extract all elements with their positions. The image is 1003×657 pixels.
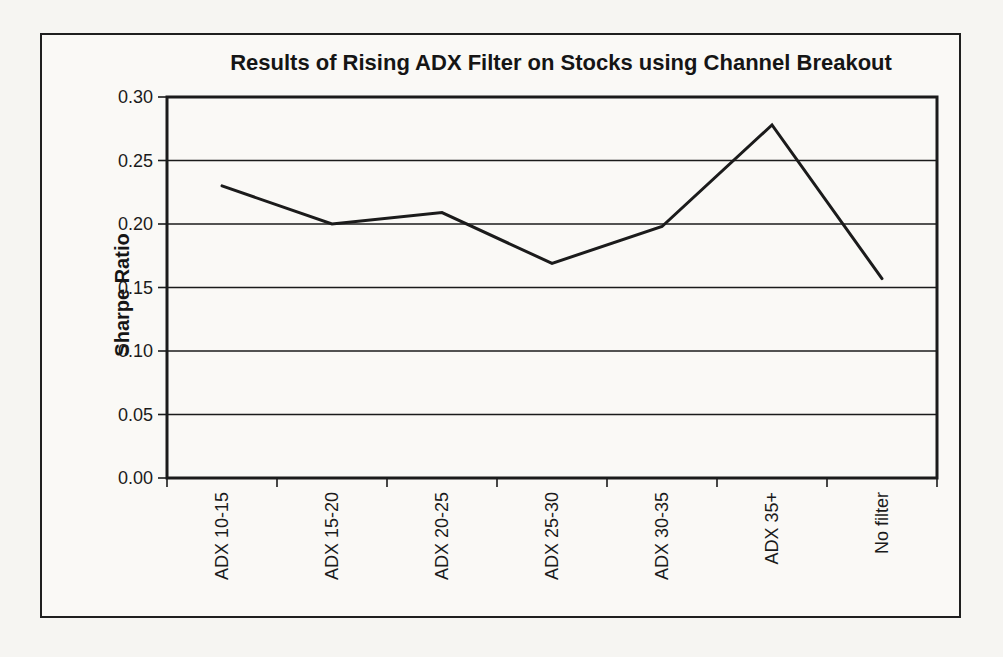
x-category-label: ADX 20-25	[432, 492, 452, 580]
y-tick-label: 0.30	[118, 87, 153, 107]
y-tick-label: 0.25	[118, 151, 153, 171]
x-category-label: ADX 25-30	[542, 492, 562, 580]
x-category-label: ADX 10-15	[212, 492, 232, 580]
y-tick-label: 0.10	[118, 341, 153, 361]
scanned-chart-page: Results of Rising ADX Filter on Stocks u…	[0, 0, 1003, 657]
y-tick-label: 0.05	[118, 405, 153, 425]
x-category-label: No filter	[872, 492, 892, 554]
x-category-label: ADX 35+	[762, 492, 782, 565]
line-chart: 0.000.050.100.150.200.250.30ADX 10-15ADX…	[0, 0, 1003, 657]
data-line-sharpe-ratio	[222, 125, 882, 279]
x-category-label: ADX 15-20	[322, 492, 342, 580]
y-tick-label: 0.20	[118, 214, 153, 234]
x-category-label: ADX 30-35	[652, 492, 672, 580]
y-tick-label: 0.15	[118, 278, 153, 298]
y-tick-label: 0.00	[118, 468, 153, 488]
